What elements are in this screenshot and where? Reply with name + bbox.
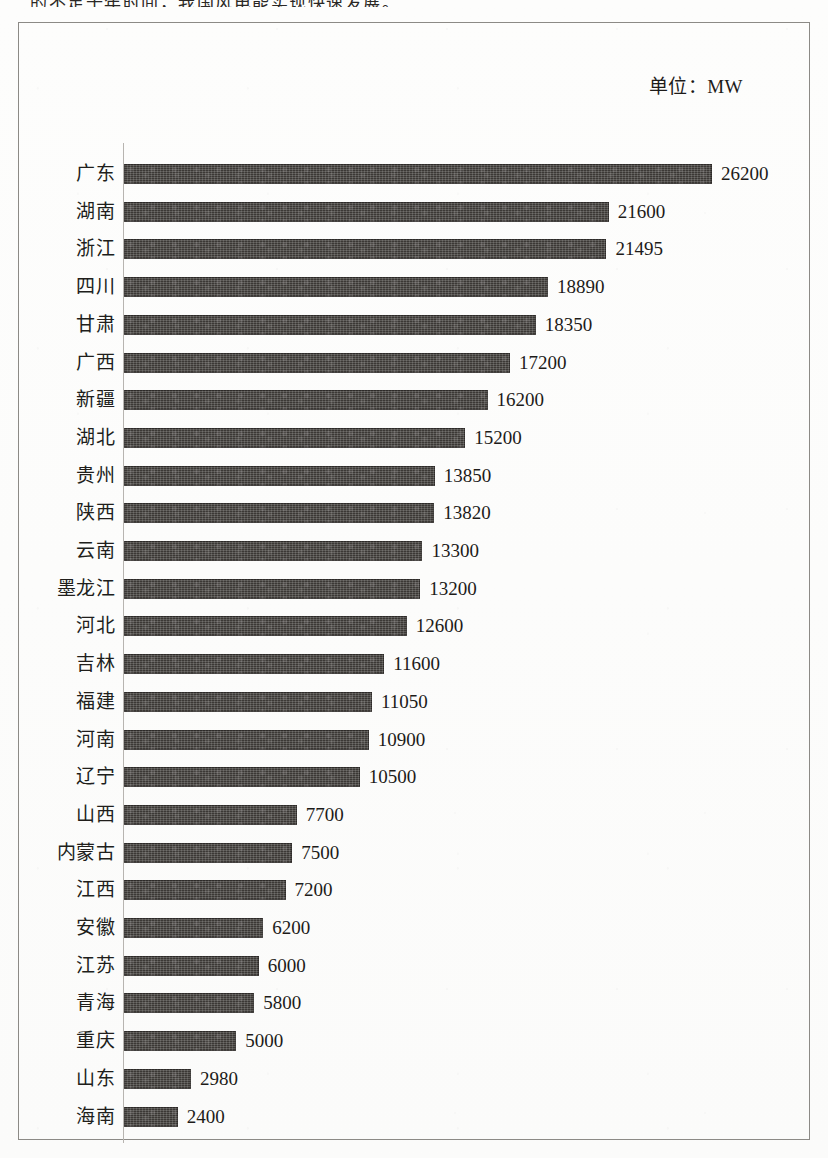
category-label: 山西	[0, 805, 115, 825]
bar-with-value: 7500	[124, 843, 339, 863]
bar-with-value: 5800	[124, 993, 301, 1013]
category-label: 安徽	[0, 918, 115, 938]
bar-row: 甘肃18350	[19, 314, 811, 352]
bar-row: 辽宁10500	[19, 766, 811, 804]
bar-value-label: 10900	[378, 730, 426, 750]
bar-value-label: 11600	[393, 654, 440, 674]
category-label: 海南	[0, 1107, 115, 1127]
bar-row: 山西7700	[19, 804, 811, 842]
bar	[124, 466, 435, 486]
bar-value-label: 7500	[301, 843, 339, 863]
bar-with-value: 7700	[124, 805, 344, 825]
bar-with-value: 18890	[124, 277, 604, 297]
bar-with-value: 13850	[124, 466, 491, 486]
category-label: 新疆	[0, 390, 115, 410]
bar-with-value: 6000	[124, 956, 306, 976]
bar-value-label: 13200	[429, 579, 477, 599]
bar-row: 吉林11600	[19, 653, 811, 691]
bar-row: 河北12600	[19, 615, 811, 653]
bar	[124, 918, 263, 938]
category-label: 湖北	[0, 428, 115, 448]
bar	[124, 503, 434, 523]
category-label: 福建	[0, 692, 115, 712]
bar-value-label: 17200	[519, 353, 567, 373]
bar-value-label: 26200	[721, 164, 769, 184]
category-label: 湖南	[0, 202, 115, 222]
bar-value-label: 18890	[557, 277, 605, 297]
bar-value-label: 2400	[187, 1107, 225, 1127]
bar-with-value: 7200	[124, 880, 333, 900]
bar	[124, 353, 510, 373]
category-label: 四川	[0, 277, 115, 297]
category-label: 贵州	[0, 466, 115, 486]
bar-row: 陕西13820	[19, 502, 811, 540]
bar	[124, 956, 259, 976]
category-label: 重庆	[0, 1031, 115, 1051]
category-label: 浙江	[0, 239, 115, 259]
bar-value-label: 13300	[431, 541, 479, 561]
category-label: 广西	[0, 353, 115, 373]
bar-value-label: 6000	[268, 956, 306, 976]
bar-row: 云南13300	[19, 540, 811, 578]
category-label: 广东	[0, 164, 115, 184]
bar-with-value: 21600	[124, 202, 665, 222]
bar	[124, 239, 606, 259]
category-label: 江苏	[0, 956, 115, 976]
bar-row: 内蒙古7500	[19, 842, 811, 880]
bar-row: 重庆5000	[19, 1030, 811, 1068]
category-label: 河南	[0, 730, 115, 750]
bar-value-label: 2980	[200, 1069, 238, 1089]
bar-row: 湖南21600	[19, 201, 811, 239]
bar-with-value: 10900	[124, 730, 425, 750]
chart-frame: 单位：MW 广东26200湖南21600浙江21495四川18890甘肃1835…	[18, 22, 810, 1140]
bar	[124, 654, 384, 674]
bar-with-value: 2400	[124, 1107, 225, 1127]
bar	[124, 805, 297, 825]
bar-row: 福建11050	[19, 691, 811, 729]
bar-row: 安徽6200	[19, 917, 811, 955]
bar-row: 河南10900	[19, 729, 811, 767]
bar	[124, 428, 465, 448]
bar	[124, 1031, 236, 1051]
category-label: 吉林	[0, 654, 115, 674]
bar-row: 湖北15200	[19, 427, 811, 465]
bar	[124, 843, 292, 863]
bar-value-label: 5800	[263, 993, 301, 1013]
bar	[124, 390, 488, 410]
bar-value-label: 11050	[381, 692, 428, 712]
bar-row: 广西17200	[19, 352, 811, 390]
bar-with-value: 15200	[124, 428, 522, 448]
bar-value-label: 13850	[444, 466, 492, 486]
bar-with-value: 12600	[124, 616, 463, 636]
bar-value-label: 13820	[443, 503, 491, 523]
bar-value-label: 5000	[245, 1031, 283, 1051]
bar-value-label: 12600	[416, 616, 464, 636]
bar-value-label: 7700	[306, 805, 344, 825]
bar	[124, 730, 369, 750]
category-label: 辽宁	[0, 767, 115, 787]
bar-with-value: 13300	[124, 541, 479, 561]
bar	[124, 993, 254, 1013]
bar-with-value: 13200	[124, 579, 477, 599]
bar-row: 贵州13850	[19, 465, 811, 503]
plot-area: 广东26200湖南21600浙江21495四川18890甘肃18350广西172…	[19, 143, 811, 1143]
bar-with-value: 5000	[124, 1031, 283, 1051]
bar-value-label: 10500	[369, 767, 417, 787]
category-label: 墨龙江	[0, 579, 115, 599]
bar-value-label: 18350	[545, 315, 593, 335]
bar-with-value: 2980	[124, 1069, 238, 1089]
bar-value-label: 15200	[474, 428, 522, 448]
category-label: 甘肃	[0, 315, 115, 335]
bar	[124, 1069, 191, 1089]
category-label: 云南	[0, 541, 115, 561]
bar-with-value: 18350	[124, 315, 592, 335]
bar	[124, 692, 372, 712]
bar-with-value: 10500	[124, 767, 416, 787]
bar-row: 四川18890	[19, 276, 811, 314]
bar	[124, 202, 609, 222]
bar-with-value: 17200	[124, 353, 567, 373]
bar-value-label: 6200	[272, 918, 310, 938]
bar-row: 新疆16200	[19, 389, 811, 427]
bar-with-value: 16200	[124, 390, 544, 410]
bar-row: 广东26200	[19, 163, 811, 201]
